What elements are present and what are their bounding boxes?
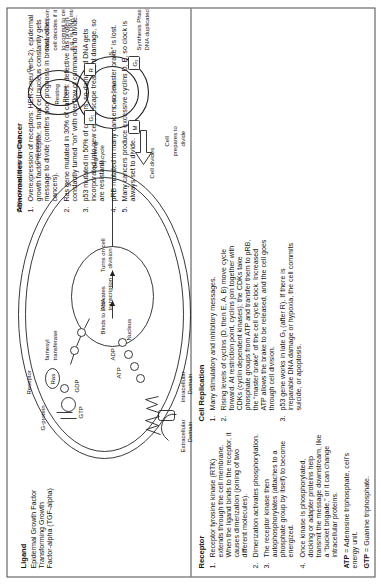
item-number: 4. [298,562,306,568]
label-r: R [87,67,93,72]
item-text: Rising levels of cyclins (D, then E, A, … [219,239,275,410]
item-text: Many stimulatory and inhibitory messages… [208,276,216,410]
atp-term: ATP [342,554,350,568]
gtp-text: = Guanine triphosphate. [362,476,370,554]
label-g1: G₁ [87,114,93,121]
label-resting-2: Phase [61,84,67,102]
list-item: 3. p53 gene works in late G₁ (after R). … [278,236,302,421]
list-item: 2. Rising levels of cyclins (D, then E, … [219,236,275,421]
ligand-line: Factor-alpha (TGF-alpha) [45,448,53,568]
cell-signaling-diagram: G-protein Receptor Ras GTP GDP farnesyl … [8,9,194,464]
label-cell-enlarges: Cell enlarges, making protein [15,134,21,212]
label-restriction-1: Restriction point: [43,9,49,50]
label-cell-enters: Cell enters [33,135,39,164]
item-number: 3. [278,415,286,421]
label-receptor: Receptor [25,370,31,394]
list-item: 1. Receptor tyrosine kinase (RTK) extend… [208,432,248,568]
atp-text: = Adenosine triphosphate, cell’s energy … [342,453,358,569]
receptor-tyrosine-kinase-glyph [145,396,176,440]
label-restriction-2: cell decides if it is alright [51,9,57,50]
label-cell-prepares-2: prepares to [171,125,177,156]
item-text: Receptor tyrosine kinase (RTK) extends t… [208,432,248,557]
item-text: Dimerization activates phosphorylation. [251,434,259,557]
label-restriction-4: e.g., is DNA intact? [67,9,73,50]
label-resting-1: Resting [53,84,59,104]
item-number: 1. [208,562,216,568]
label-extracellular-2: Domain [186,421,192,442]
label-activates-2: transcription [106,277,112,310]
phosphorylation-cascade [118,338,144,382]
cell-replication-heading: Cell Replication [196,236,205,421]
label-ras: Ras [49,373,55,384]
ligand-line: Transforming Growth [37,448,45,568]
item-number: 1. [208,415,216,421]
item-number: 2. [251,562,259,568]
label-restriction-3: to commit to cell division, [59,9,65,50]
label-g-protein: G-protein [39,405,45,430]
receptor-list: 1. Receptor tyrosine kinase (RTK) extend… [208,432,338,568]
list-item: 2. Dimerization activates phosphorylatio… [251,432,259,568]
label-adp: ADP [109,348,115,360]
receptor-section: Receptor 1. Receptor tyrosine kinase (RT… [196,432,370,568]
label-extracellular-1: Extracellular [179,419,185,452]
receptor-heading: Receptor [196,432,205,568]
list-item: 1. Many stimulatory and inhibitory messa… [208,236,216,421]
label-intracellular-2: Domain [186,373,192,394]
label-intracellular-1: Intracellular [179,371,185,402]
label-g2: G₂ [131,58,137,66]
label-cell-cycle: Cell cycle [110,82,116,108]
list-item: 3. The receptor kinase then autophosphor… [262,432,294,568]
cell-replication-section: Cell Replication 1. Many stimulatory and… [196,236,306,421]
label-m: M [131,125,137,130]
list-item: 4. Once kinase is phosphorylated, dockin… [298,432,338,568]
item-number: 2. [219,415,227,421]
label-beginning-1: Beginning [91,141,97,168]
label-atp: ATP [115,367,121,378]
label-cell-prepares-1: Cell [163,136,169,146]
diagram-sheet: Abnormalities in Cancer 1. Overexpressio… [0,0,381,584]
label-activates-1: Activates [99,286,105,310]
label-cell-prepares-3: divide [179,130,185,146]
label-nucleus: Nucleus [125,318,131,340]
gtp-definition: GTP = Guanine triphosphate. [362,432,370,568]
item-text: Once kinase is phosphorylated, docking o… [298,434,338,557]
item-text: The receptor kinase then autophosphoryla… [262,440,294,557]
ligand-heading: Ligand [18,448,27,568]
ras-protein-glyph [45,368,68,392]
label-s: S [107,51,113,55]
label-turns-on-2: division [106,248,112,268]
label-beginning-2: of cycle [98,144,104,165]
label-g0: G₀ [25,64,31,72]
g-protein-glyph [56,397,76,418]
scanned-page-frame: Abnormalities in Cancer 1. Overexpressio… [0,0,381,584]
item-number: 3. [262,562,270,568]
label-farnesyl-2: transferase [51,329,57,360]
label-cell-divides: Cell divides [148,147,154,178]
item-text: p53 gene works in late G₁ (after R). If … [278,242,302,410]
gtp-term: GTP [362,553,370,568]
label-farnesyl-1: farnesyl [43,339,49,360]
label-gtp: GTP [77,406,83,418]
label-turns-on-1: Turns on cell [99,238,105,272]
label-synthesis-1: Synthesis Phase: [135,9,141,50]
label-synthesis-2: DNA duplicated [143,9,149,50]
label-gdp: GDP [73,379,79,392]
ligand-legend: Ligand Epidermal Growth Factor Transform… [18,448,53,568]
atp-definition: ATP = Adenosine triphosphate, cell’s ene… [342,432,358,568]
cell-replication-list: 1. Many stimulatory and inhibitory messa… [208,236,302,421]
ligand-line: Epidermal Growth Factor [29,448,37,568]
